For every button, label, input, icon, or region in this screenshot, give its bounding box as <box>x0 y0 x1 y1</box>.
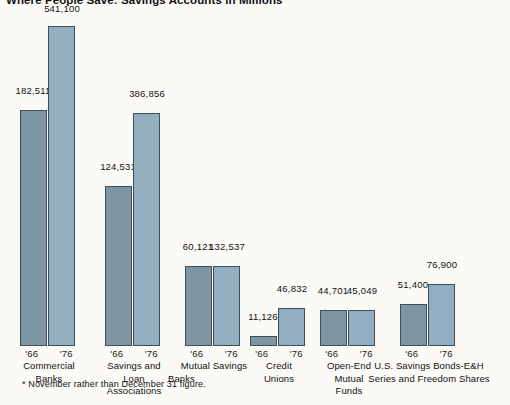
bar-value-76: 76,900 <box>427 259 457 270</box>
bar-group-savings-and-loan: 124,531 386,856 <box>103 0 165 346</box>
category-label-line1: U.S. Savings Bonds-E&H <box>349 360 509 372</box>
year-ticks: '66 '76 <box>349 348 509 359</box>
bar-group-commercial-banks: 182,511 541,100 <box>18 0 80 346</box>
bar-76 <box>348 310 375 346</box>
bar-value-76: 132,537 <box>209 241 245 252</box>
year-tick-66: '66 <box>325 348 338 359</box>
bar-group-open-end-mutual-funds: 44,701 45,049 <box>318 0 380 346</box>
category-label-line1: Commercial <box>1 360 97 372</box>
category-label-line2: Series and Freedom Shares <box>349 373 509 385</box>
bar-chart-plot-area: 182,511 541,100 124,531 386,856 60,121 1… <box>0 0 510 346</box>
bar-value-66: 124,531 <box>100 161 136 172</box>
year-tick-66: '66 <box>25 348 38 359</box>
bar-66 <box>320 310 347 346</box>
bar-76 <box>278 308 305 346</box>
bar-group-credit-unions: 11,126 46,832 <box>248 0 310 346</box>
year-ticks: '66 '76 <box>1 348 97 359</box>
bar-76 <box>133 113 160 346</box>
bar-group-us-savings-bonds: 51,400 76,900 <box>398 0 460 346</box>
bar-value-76: 46,832 <box>277 283 307 294</box>
bar-value-76: 541,100 <box>44 3 80 14</box>
bar-76 <box>428 284 455 346</box>
bar-value-66: 11,126 <box>248 311 278 322</box>
axis-baseline <box>0 345 510 346</box>
bar-value-76: 386,856 <box>129 88 165 99</box>
bar-value-66: 44,701 <box>318 285 348 296</box>
bar-value-66: 182,511 <box>15 85 50 96</box>
category-label-line3: Funds <box>301 385 397 397</box>
bar-66 <box>105 186 132 346</box>
year-tick-66: '66 <box>255 348 268 359</box>
bar-value-76: 45,049 <box>347 285 377 296</box>
axis-label-us-savings-bonds: '66 '76 U.S. Savings Bonds-E&H Series an… <box>349 348 509 384</box>
bar-76 <box>213 266 240 346</box>
year-tick-66: '66 <box>190 348 203 359</box>
bar-value-66: 51,400 <box>398 279 428 290</box>
bar-group-mutual-savings-banks: 60,121 132,537 <box>183 0 245 346</box>
bar-76 <box>48 26 75 346</box>
year-tick-76: '76 <box>60 348 73 359</box>
year-tick-66: '66 <box>405 348 418 359</box>
year-tick-76: '76 <box>440 348 453 359</box>
bar-66 <box>185 266 212 346</box>
footnote: * November rather than December 31 figur… <box>22 379 206 389</box>
year-tick-66: '66 <box>110 348 123 359</box>
bar-66 <box>400 304 427 346</box>
bar-66 <box>20 110 47 346</box>
year-tick-76: '76 <box>145 348 158 359</box>
